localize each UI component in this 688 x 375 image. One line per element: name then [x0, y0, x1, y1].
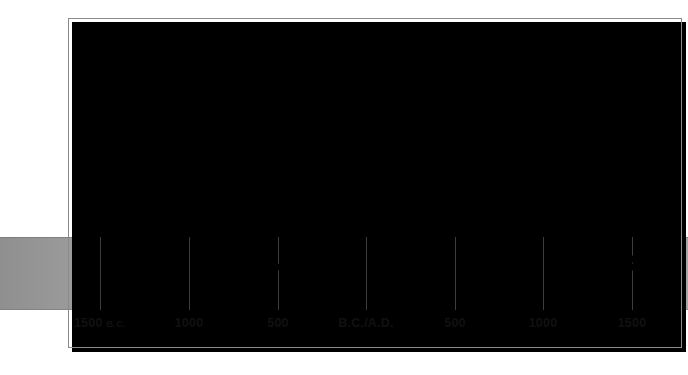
tick-label-6: 1500 — [618, 316, 647, 330]
event-label: Height of Aztec and Inca empires — [468, 67, 655, 81]
tick-label-value: B.C./A.D. — [338, 316, 393, 330]
event-leader-line — [152, 198, 153, 267]
tick-label-value: 500 — [267, 316, 288, 330]
tick-label-4: 500 — [444, 316, 465, 330]
event-label: Kingdom of Kush — [323, 110, 420, 124]
event-dot — [149, 264, 156, 271]
event-dot — [605, 264, 612, 271]
gridline-1500-0 — [100, 237, 101, 310]
event-dot — [391, 264, 398, 271]
event-leader-line — [347, 147, 348, 267]
event-dot — [561, 264, 568, 271]
event-label: Mayas build a civilization — [212, 161, 352, 175]
event-leader-line — [564, 162, 565, 267]
tick-label-value: 1000 — [175, 316, 204, 330]
event-label: Rise of Ghana — [460, 188, 541, 202]
event-leader-line — [492, 198, 493, 267]
event-leader-line — [394, 120, 395, 267]
event-dot — [274, 264, 281, 271]
event-leader-line — [633, 54, 634, 259]
event-dot — [630, 256, 637, 263]
event-label: Rise of Olmecs in Mexico — [89, 188, 232, 202]
gridline-1000-1 — [189, 237, 190, 310]
gridline-1000-5 — [543, 237, 544, 310]
tick-label-1: 1000 — [175, 316, 204, 330]
tick-label-5: 1000 — [529, 316, 558, 330]
timeline-figure: 1500 B.C.1000500B.C./A.D.50010001500 Ris… — [0, 0, 688, 375]
tick-label-0: 1500 B.C. — [74, 316, 126, 330]
tick-label-3: B.C./A.D. — [338, 316, 393, 330]
gridline-BCAD-3 — [366, 237, 367, 310]
event-leader-line — [608, 121, 609, 267]
tick-label-value: 500 — [444, 316, 465, 330]
event-dot — [489, 264, 496, 271]
event-label: Ethiopia becomes Christian — [265, 85, 420, 99]
event-label: Songhai conquers Mali — [488, 111, 617, 125]
event-leader-line — [419, 95, 420, 267]
gridline-500-4 — [455, 237, 456, 310]
tick-label-value: 1500 — [618, 316, 647, 330]
event-label: East African trading cities — [435, 152, 578, 166]
gridline-500-2 — [278, 237, 279, 310]
event-dot — [630, 264, 637, 271]
event-label: Portuguese reach East Africa — [490, 44, 655, 58]
event-leader-line — [277, 171, 278, 267]
event-dot — [416, 264, 423, 271]
tick-label-value: 1000 — [529, 316, 558, 330]
tick-label-2: 500 — [267, 316, 288, 330]
tick-label-value: 1500 — [74, 316, 103, 330]
event-label: Hopewell and Hohokam cultures — [169, 137, 352, 151]
event-dot — [344, 264, 351, 271]
tick-label-era: B.C. — [106, 318, 126, 329]
